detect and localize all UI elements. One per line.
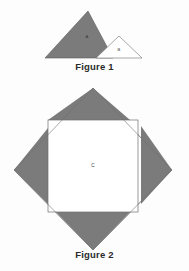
wedge-bottom-shape xyxy=(56,212,130,250)
wedge-left-shape xyxy=(14,128,48,204)
figure-2-caption: Figure 2 xyxy=(0,250,189,260)
triangle-a-shape xyxy=(45,11,113,58)
triangle-a-label: A xyxy=(86,34,89,39)
figure-2-canvas: C xyxy=(0,82,189,262)
wedge-top-shape xyxy=(48,88,130,120)
triangle-b-label: B xyxy=(118,47,121,52)
figure-2-group: C Figure 2 xyxy=(0,82,189,271)
figure-1-group: A B Figure 1 xyxy=(0,0,189,80)
figure-1-caption: Figure 1 xyxy=(0,62,189,72)
figures-page: A B Figure 1 C Figure 2 xyxy=(0,0,189,271)
